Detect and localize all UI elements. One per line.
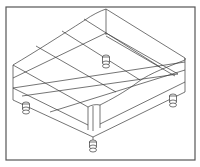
foot-right bbox=[170, 94, 177, 107]
ridge-line-2 bbox=[106, 36, 175, 76]
isometric-box-drawing bbox=[0, 0, 200, 167]
box-body bbox=[13, 9, 185, 137]
top-left-curve bbox=[13, 9, 106, 65]
grid-line-e bbox=[22, 74, 178, 96]
grid-line-b bbox=[62, 31, 140, 80]
foot-back bbox=[103, 55, 110, 68]
grid-line-c bbox=[84, 19, 160, 67]
grid-line-d bbox=[13, 33, 106, 78]
grid-line-a bbox=[36, 46, 116, 92]
grid-line-g bbox=[50, 70, 185, 112]
front-corner-round bbox=[88, 105, 100, 107]
drawing-frame bbox=[6, 7, 195, 160]
foot-front bbox=[90, 137, 97, 152]
foot-left bbox=[23, 102, 30, 114]
wireframe-canvas bbox=[0, 0, 200, 167]
ridge-line-1 bbox=[106, 33, 178, 74]
top-right-edge bbox=[106, 9, 185, 58]
